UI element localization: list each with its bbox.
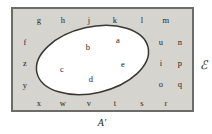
element-g: g (37, 16, 41, 25)
element-s: s (140, 99, 144, 108)
element-f: f (23, 38, 26, 47)
element-e: e (121, 60, 125, 69)
universal-set-label: ℰ (200, 58, 207, 72)
element-z: z (23, 59, 27, 68)
element-a: a (116, 36, 120, 45)
element-y: y (23, 81, 27, 90)
element-d: d (89, 75, 93, 84)
element-x: x (37, 99, 41, 108)
element-u: u (159, 38, 163, 47)
element-p: p (178, 59, 182, 68)
element-k: k (113, 16, 117, 25)
element-c: c (60, 65, 64, 74)
element-j: j (88, 16, 91, 25)
element-t: t (114, 99, 117, 108)
element-n: n (178, 38, 182, 47)
element-h: h (61, 16, 65, 25)
element-r: r (164, 99, 167, 108)
element-w: w (60, 99, 66, 108)
set-a-complement-label: A′ (98, 117, 106, 128)
element-i: i (160, 59, 163, 68)
element-q: q (178, 80, 182, 89)
set-diagram: abcdeghjklmfzyunipoqxwvtsr A′ ℰ (0, 0, 212, 134)
element-m: m (163, 16, 170, 25)
element-b: b (86, 43, 90, 52)
element-l: l (141, 16, 144, 25)
element-o: o (159, 80, 163, 89)
element-v: v (87, 99, 91, 108)
